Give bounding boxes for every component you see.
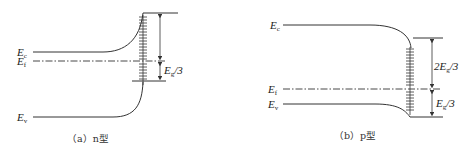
gap-label-a: Eg/3 xyxy=(163,64,183,78)
caption-b: （b）p型 xyxy=(334,130,376,141)
ef-label-b: Ef xyxy=(267,83,278,97)
ev-label-a: Ev xyxy=(16,111,28,125)
panel-a-n-type: Ec Ef Ev Eg/3 （a）n型 xyxy=(16,13,183,144)
panel-b-p-type: Ec Ef Ev 2Eg/3 Eg/3 （b）p型 xyxy=(267,19,459,141)
gap-label-upper-b: 2Eg/3 xyxy=(434,60,459,74)
ec-label-b: Ec xyxy=(269,19,280,33)
gap-label-lower-b: Eg/3 xyxy=(435,97,455,111)
conduction-band-edge-a xyxy=(33,13,143,52)
band-diagram-canvas: Ec Ef Ev Eg/3 （a）n型 xyxy=(0,0,467,154)
valence-band-edge-a xyxy=(33,82,143,117)
caption-a: （a）n型 xyxy=(67,133,109,144)
conduction-band-edge-b xyxy=(283,25,411,48)
ev-label-b: Ev xyxy=(267,98,279,112)
surface-states-b xyxy=(406,47,414,115)
valence-band-edge-b xyxy=(283,104,410,117)
